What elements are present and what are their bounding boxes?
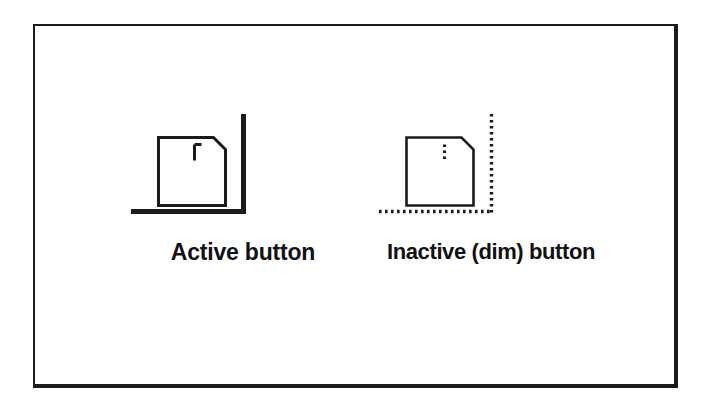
- active-button-artwork: [113, 112, 373, 230]
- active-card-glyph: [159, 138, 226, 206]
- inactive-card-glyph: [407, 138, 474, 206]
- active-button-demo[interactable]: Active button: [113, 112, 373, 312]
- active-button-caption: Active button: [113, 238, 373, 266]
- inactive-button-artwork: [361, 112, 621, 230]
- active-card-outline: [159, 138, 226, 206]
- inactive-card-outline: [407, 138, 474, 206]
- figure-canvas: Active button: [35, 26, 680, 390]
- figure-root: Active button: [0, 0, 707, 413]
- inactive-button-demo[interactable]: Inactive (dim) button: [361, 112, 621, 312]
- figure-frame-border: Active button: [33, 24, 678, 388]
- inactive-button-icon[interactable]: [361, 112, 621, 230]
- inactive-button-caption: Inactive (dim) button: [361, 238, 621, 266]
- active-button-icon[interactable]: [113, 112, 373, 230]
